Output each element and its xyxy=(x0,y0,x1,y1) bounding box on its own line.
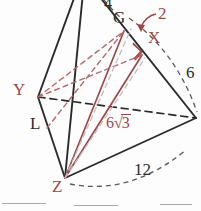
measure-label-12: 12 xyxy=(134,161,151,178)
answer-blank-2 xyxy=(74,205,118,206)
measure-label-2: 2 xyxy=(158,5,167,22)
vertex-label-Y: Y xyxy=(13,81,25,98)
answer-blank-3 xyxy=(160,204,192,205)
segment-Y-to-X-dashed xyxy=(38,55,142,97)
edge-Y-to-Z xyxy=(38,97,65,178)
measure-label-6-sqrt-3: 6√3 xyxy=(106,114,131,131)
measure-arcs xyxy=(70,0,197,186)
vertex-label-X: X xyxy=(148,29,160,46)
measure-label-6: 6 xyxy=(186,64,195,81)
vertex-label-L: L xyxy=(30,115,40,132)
vertex-label-G: G xyxy=(113,9,125,26)
edge-apex-to-R xyxy=(88,0,196,118)
figure-page: G X Y L Z 4 2 6 12 6√3 xyxy=(0,0,201,211)
vertex-label-Z: Z xyxy=(52,178,62,195)
tetrahedron-diagram xyxy=(0,0,201,211)
measure-label-4: 4 xyxy=(104,0,112,12)
answer-blank-1 xyxy=(2,203,46,204)
radical-coefficient: 6 xyxy=(106,114,114,131)
radical-radicand: 3 xyxy=(121,114,131,131)
